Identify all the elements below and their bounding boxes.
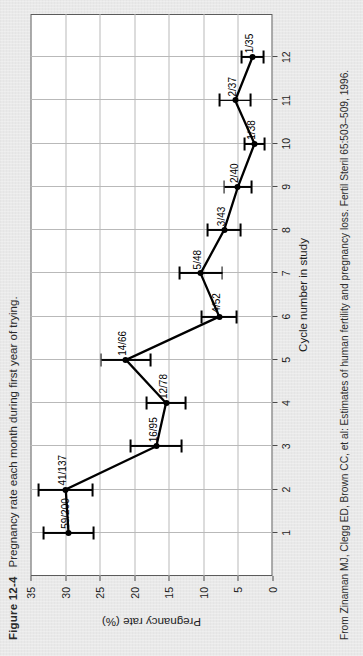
x-tick-label: 11	[279, 95, 291, 106]
y-tick-label: 0	[266, 587, 278, 593]
x-tick	[272, 56, 277, 57]
data-point	[65, 530, 71, 536]
y-tick-label: 15	[162, 587, 174, 599]
data-point-label: 1/35	[243, 34, 254, 53]
y-tick	[168, 576, 169, 581]
error-bar-cap	[218, 94, 220, 107]
data-point-label: 14/66	[116, 331, 127, 356]
y-tick-label: 20	[128, 587, 140, 599]
data-point-label: 12/78	[157, 374, 168, 399]
error-bar-cap	[235, 310, 237, 323]
x-tick-label: 2	[279, 487, 291, 493]
error-bar-cap	[201, 310, 203, 323]
x-tick	[272, 532, 277, 533]
data-point-label: 4/52	[210, 293, 221, 312]
data-point-label: 1/38	[245, 120, 256, 139]
x-tick-label: 1	[279, 530, 291, 536]
error-bar-cap	[178, 267, 180, 280]
data-point-label: 2/37	[226, 77, 237, 96]
error-bar-cap	[206, 224, 208, 237]
error-bar-cap	[223, 180, 225, 193]
error-bar-cap	[221, 267, 223, 280]
y-tick	[237, 576, 238, 581]
error-bar-cap	[37, 483, 39, 496]
x-tick-label: 5	[279, 357, 291, 363]
figure-caption: Figure 12-4Pregnancy rate each month dur…	[6, 20, 18, 640]
x-tick	[272, 489, 277, 490]
x-tick-label: 9	[279, 184, 291, 190]
y-tick	[30, 576, 31, 581]
y-tick-label: 5	[231, 587, 243, 593]
error-bar-cap	[92, 526, 94, 539]
y-axis-title: Pregnancy rate (%)	[101, 616, 200, 628]
data-point	[251, 141, 257, 147]
y-tick-label: 25	[93, 587, 105, 599]
data-point-label: 3/43	[215, 207, 226, 226]
error-bar-cap	[145, 397, 147, 410]
x-tick	[272, 229, 277, 230]
error-bar-cap	[184, 397, 186, 410]
figure-number: Figure 12-4	[6, 576, 18, 640]
y-tick-label: 30	[59, 587, 71, 599]
y-tick	[203, 576, 204, 581]
error-bar-cap	[262, 51, 264, 64]
error-bar-cap	[180, 440, 182, 453]
x-tick-label: 10	[279, 138, 291, 150]
x-tick-label: 6	[279, 314, 291, 320]
error-bar-cap	[149, 353, 151, 366]
x-tick	[272, 359, 277, 360]
x-tick	[272, 186, 277, 187]
error-bar-cap	[250, 180, 252, 193]
x-tick-label: 7	[279, 270, 291, 276]
data-point	[163, 400, 169, 406]
error-bar-cap	[91, 483, 93, 496]
x-tick	[272, 99, 277, 100]
data-point-label: 16/95	[147, 417, 158, 442]
error-bar-cap	[239, 224, 241, 237]
error-bar-cap	[263, 137, 265, 150]
data-point	[234, 184, 240, 190]
data-point-label: 41/137	[56, 455, 67, 486]
x-axis-title: Cycle number in study	[296, 238, 308, 352]
x-tick	[272, 143, 277, 144]
x-tick	[272, 402, 277, 403]
figure-rotated-container: Figure 12-4Pregnancy rate each month dur…	[0, 0, 363, 656]
error-bar-cap	[129, 440, 131, 453]
x-tick-label: 8	[279, 227, 291, 233]
data-point-label: 2/40	[228, 163, 239, 182]
error-bar-cap	[100, 353, 102, 366]
y-tick-label: 35	[24, 587, 36, 599]
data-point	[221, 227, 227, 233]
y-tick	[99, 576, 100, 581]
error-bar-cap	[240, 51, 242, 64]
x-tick	[272, 445, 277, 446]
x-tick-label: 4	[279, 400, 291, 406]
data-point	[197, 270, 203, 276]
error-bar-cap	[249, 94, 251, 107]
x-tick	[272, 316, 277, 317]
y-tick	[134, 576, 135, 581]
y-tick-label: 10	[197, 587, 209, 599]
data-point	[122, 357, 128, 363]
figure-caption-text: Pregnancy rate each month during first y…	[6, 296, 18, 567]
data-point	[216, 314, 222, 320]
data-point	[62, 487, 68, 493]
data-point	[249, 54, 255, 60]
x-tick-label: 12	[279, 51, 291, 63]
data-point	[153, 443, 159, 449]
y-tick	[65, 576, 66, 581]
y-tick	[272, 576, 273, 581]
data-point-label: 5/48	[191, 250, 202, 269]
book-page: Figure 12-4Pregnancy rate each month dur…	[0, 0, 363, 656]
error-bar-cap	[42, 526, 44, 539]
x-tick	[272, 272, 277, 273]
data-point-label: 59/200	[59, 498, 70, 529]
data-point	[232, 97, 238, 103]
chart-plot-area: 05101520253035123456789101112 59/20041/1…	[30, 14, 272, 576]
x-tick-label: 3	[279, 443, 291, 449]
figure-source-credit: From Zinaman MJ, Clegg ED, Brown CC, et …	[338, 10, 349, 640]
